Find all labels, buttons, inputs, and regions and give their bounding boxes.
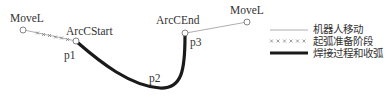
legend-label-arc-prep: 起弧准备阶段 bbox=[313, 36, 373, 47]
legend-label-robot-move: 机器人移动 bbox=[313, 24, 363, 35]
label-movel-end: MoveL bbox=[230, 5, 264, 17]
label-p1: p1 bbox=[64, 50, 76, 62]
label-arc-start: ArcCStart bbox=[66, 26, 113, 38]
arc-end-point bbox=[182, 30, 188, 36]
movel-start-point bbox=[20, 27, 26, 33]
arc-start-point bbox=[73, 38, 79, 44]
weld-curve bbox=[77, 36, 185, 88]
label-movel-start: MoveL bbox=[10, 13, 44, 25]
movel-end-point bbox=[244, 19, 250, 25]
legend-crosses bbox=[270, 40, 306, 43]
label-p3: p3 bbox=[190, 37, 202, 49]
label-arc-end: ArcCEnd bbox=[156, 15, 199, 27]
label-p2: p2 bbox=[149, 73, 161, 85]
legend-label-weld-crater: 焊接过程和收弧 bbox=[313, 48, 383, 59]
